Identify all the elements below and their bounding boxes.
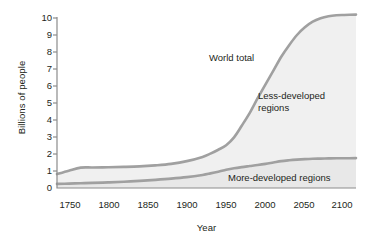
annotation-less-developed-line2: regions bbox=[258, 102, 325, 114]
population-growth-chart: Billions of people 10 9 8 7 6 5 4 3 2 1 … bbox=[0, 0, 372, 242]
annotation-less-developed-line1: Less-developed bbox=[258, 90, 325, 102]
annotation-world-total: World total bbox=[209, 52, 254, 64]
annotation-less-developed-regions: Less-developed regions bbox=[258, 90, 325, 113]
plot-area bbox=[0, 0, 372, 242]
annotation-more-developed-regions: More-developed regions bbox=[228, 172, 330, 184]
